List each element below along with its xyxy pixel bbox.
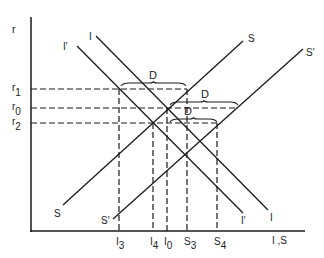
brace-1 — [170, 100, 238, 105]
tick-label-I0: I0 — [164, 236, 173, 251]
curve-label-s-prime-top: S' — [306, 47, 315, 58]
gap-label-d: D — [149, 69, 157, 81]
curve-I-prime — [77, 46, 243, 213]
gap-labels: DDD — [149, 69, 209, 117]
curve-label-s-top: S — [248, 33, 255, 44]
interest-rate-labels: r1r0r2 — [12, 82, 21, 132]
gap-label-d: D — [201, 88, 209, 100]
tick-label-S4: S4 — [214, 236, 227, 251]
label-r0: r0 — [12, 101, 21, 117]
gap-braces — [121, 81, 238, 122]
quantity-levels — [119, 89, 217, 231]
label-r1: r1 — [12, 82, 21, 98]
curves — [63, 36, 303, 219]
brace-0 — [121, 81, 186, 86]
x-axis-label: I ,S — [272, 235, 287, 246]
label-r2: r2 — [12, 116, 21, 132]
curve-label-s-bottom: S — [54, 208, 61, 219]
quantity-labels: I3I4I0S3S4 — [116, 236, 227, 251]
y-axis-label: r — [12, 23, 16, 35]
curve-label-i-prime-bottom: I' — [241, 215, 246, 226]
curve-label-i-prime-top: I' — [63, 41, 68, 52]
is-diagram: r I ,S I I' S S' S S' I' I r1r0r2 I3I4I0… — [0, 0, 324, 258]
gap-label-d: D — [184, 105, 192, 117]
tick-label-I4: I4 — [150, 236, 159, 251]
curve-label-i-top: I — [89, 31, 92, 42]
curve-label-i-bottom: I — [270, 212, 273, 223]
tick-label-I3: I3 — [116, 236, 125, 251]
curve-label-s-prime-bottom: S' — [101, 215, 110, 226]
tick-label-S3: S3 — [184, 236, 197, 251]
